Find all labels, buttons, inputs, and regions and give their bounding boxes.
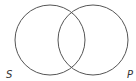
set-s-label: S	[6, 69, 13, 80]
set-s-circle	[15, 5, 85, 75]
set-p-circle	[58, 5, 128, 75]
venn-diagram: S P	[0, 0, 136, 81]
set-p-label: P	[127, 69, 134, 80]
